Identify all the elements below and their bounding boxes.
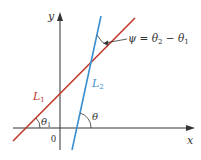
theta1-arc bbox=[36, 118, 40, 128]
psi-label: ψ = θ2 − θ1 bbox=[128, 32, 189, 46]
theta2-arc bbox=[80, 113, 91, 128]
theta1-label: θ1 bbox=[41, 116, 51, 129]
x-axis-label: x bbox=[187, 134, 194, 147]
angle-between-lines-diagram: y x 0 L1 L2 θ1 θ ψ = θ2 − θ1 bbox=[0, 0, 201, 160]
L1-label: L1 bbox=[32, 90, 45, 104]
theta2-label: θ bbox=[92, 111, 98, 122]
L2-label: L2 bbox=[91, 77, 104, 91]
origin-label: 0 bbox=[51, 133, 56, 144]
y-axis-label: y bbox=[47, 10, 55, 23]
line-L1 bbox=[13, 18, 135, 141]
psi-pointer bbox=[105, 39, 127, 43]
y-axis-arrow-icon bbox=[57, 12, 63, 21]
x-axis-arrow-icon bbox=[186, 125, 195, 131]
